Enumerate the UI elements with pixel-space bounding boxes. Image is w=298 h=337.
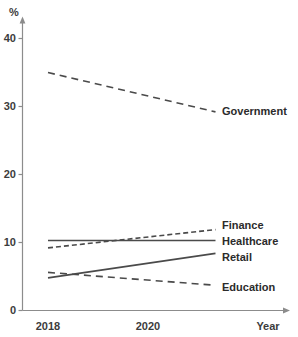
line-chart: % Year 0 10 20 30 40 2018 2020 Governmen… [0,0,298,337]
x-tick-label-2018: 2018 [36,320,60,332]
series-line-education [48,272,216,285]
x-axis-title: Year [256,320,280,332]
y-tick-label-10: 10 [4,236,16,248]
y-axis [20,17,26,311]
x-axis-arrowhead [283,308,290,314]
series-label-education: Education [222,281,275,293]
y-tick-label-30: 30 [4,100,16,112]
series-label-retail: Retail [222,251,252,263]
y-tick-label-40: 40 [4,32,16,44]
series-label-healthcare: Healthcare [222,235,278,247]
series-label-government: Government [222,105,287,117]
chart-canvas: % Year 0 10 20 30 40 2018 2020 Governmen… [0,0,298,337]
y-axis-arrowhead [20,17,26,24]
series-line-government [48,73,216,112]
series-line-finance [48,230,216,248]
y-axis-title: % [9,6,19,18]
series-label-finance: Finance [222,219,264,231]
y-tick-label-0: 0 [10,304,16,316]
y-tick-label-20: 20 [4,168,16,180]
x-axis [23,308,291,314]
x-tick-label-2020: 2020 [136,320,160,332]
